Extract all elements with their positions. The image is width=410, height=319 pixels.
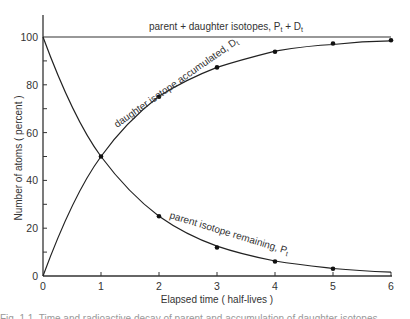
y-axis-title: Number of atoms ( percent ) — [13, 95, 24, 220]
y-tick-60: 60 — [26, 127, 38, 139]
x-tick-6: 6 — [388, 280, 394, 292]
x-tick-5: 5 — [330, 280, 336, 292]
x-tick-2: 2 — [156, 280, 162, 292]
y-tick-0: 0 — [32, 270, 38, 282]
y-tick-40: 40 — [26, 174, 38, 186]
y-tick-100: 100 — [20, 31, 38, 43]
total-label: parent + daughter isotopes, Pt + Dt — [149, 21, 303, 33]
x-tick-3: 3 — [214, 280, 220, 292]
x-tick-labels: 0 1 2 3 4 5 6 — [40, 280, 394, 292]
x-axis-title: Elapsed time ( half-lives ) — [161, 294, 273, 305]
y-tick-20: 20 — [26, 222, 38, 234]
daughter-label: daughter isotope accumulated, Dt — [112, 35, 241, 130]
daughter-curve — [43, 41, 391, 276]
figure-caption: Fig. 1.1. Time and radioactive decay of … — [0, 312, 410, 319]
x-tick-0: 0 — [40, 280, 46, 292]
decay-chart: 0 20 40 60 80 100 0 1 2 3 4 5 6 Elapsed … — [0, 0, 410, 319]
x-tick-1: 1 — [98, 280, 104, 292]
y-tick-80: 80 — [26, 79, 38, 91]
x-tick-4: 4 — [272, 280, 278, 292]
parent-curve — [43, 37, 391, 272]
